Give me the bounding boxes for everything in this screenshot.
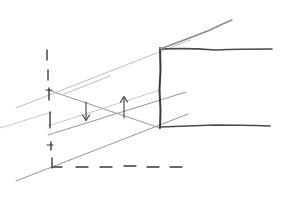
box-bottom-edge: [160, 125, 270, 127]
roof-diagonal: [160, 20, 232, 49]
box-top-edge: [160, 49, 272, 50]
crossing-lines: [48, 90, 160, 128]
projection-line-4: [16, 114, 188, 181]
dashed-horizontal-axis: [53, 166, 182, 167]
box-vertical-edge: [160, 48, 161, 128]
projection-line-5: [0, 112, 52, 128]
projection-line-2: [64, 76, 110, 94]
box-outline: [160, 20, 273, 128]
dashed-vertical-axis: [46, 50, 53, 168]
sketch-canvas: [0, 0, 286, 199]
down-arrow-icon: [83, 102, 90, 121]
projection-line-1: [16, 40, 190, 108]
